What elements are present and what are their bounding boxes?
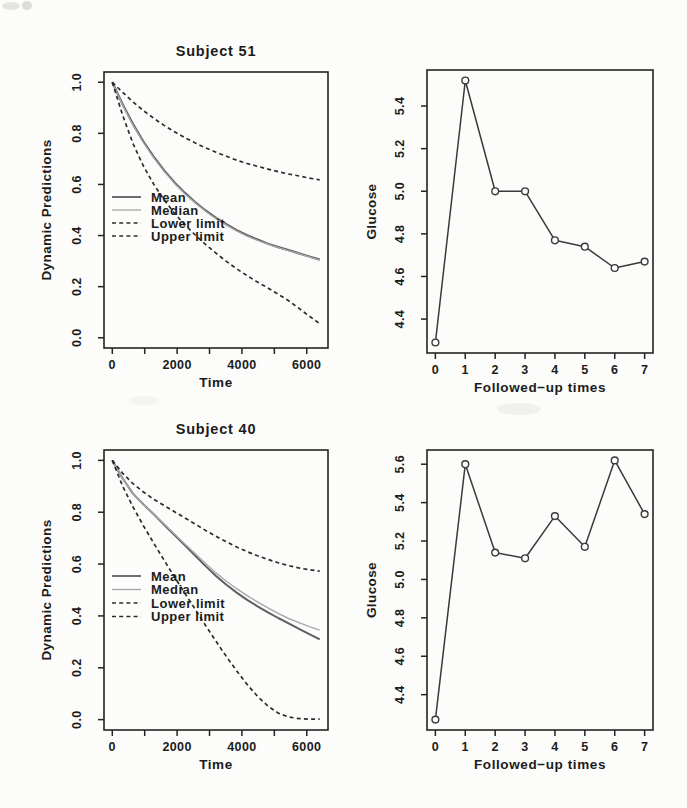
y-tick-label: 5.0 <box>393 570 407 589</box>
data-point-marker <box>462 77 469 84</box>
plot-box <box>427 450 653 730</box>
figure-canvas: 02000400060000.00.20.40.60.81.0TimeDynam… <box>0 0 687 808</box>
x-axis-label: Followed−up times <box>474 757 606 772</box>
y-axis-label: Glucose <box>364 562 379 618</box>
data-point-marker <box>581 243 588 250</box>
x-tick-label: 4 <box>551 740 558 754</box>
y-axis-label: Dynamic Predictions <box>39 139 54 280</box>
y-tick-label: 4.8 <box>393 225 407 244</box>
series-upper-limit-line <box>112 460 319 571</box>
y-tick-label: 4.8 <box>393 609 407 628</box>
y-tick-label: 0.2 <box>70 658 84 677</box>
legend-label-upper-limit: Upper limit <box>151 229 225 244</box>
subject-51-predictions: 02000400060000.00.20.40.60.81.0TimeDynam… <box>39 43 329 390</box>
x-tick-label: 5 <box>581 740 588 754</box>
y-tick-label: 0.4 <box>70 607 84 626</box>
x-tick-label: 0 <box>109 358 116 372</box>
y-tick-label: 4.4 <box>393 685 407 704</box>
x-tick-label: 2000 <box>162 740 191 754</box>
data-point-marker <box>552 513 559 520</box>
x-tick-label: 4000 <box>227 358 256 372</box>
legend-label-upper-limit: Upper limit <box>151 609 225 624</box>
y-tick-label: 0.6 <box>70 175 84 194</box>
y-tick-label: 0.4 <box>70 226 84 245</box>
series-lower-limit-line <box>112 460 319 719</box>
subject-51-glucose: 012345674.44.64.85.05.25.4Followed−up ti… <box>364 70 654 395</box>
x-tick-label: 4 <box>551 363 558 377</box>
chart-title: Subject 51 <box>176 43 257 59</box>
y-tick-label: 4.6 <box>393 647 407 666</box>
series-lower-limit-line <box>112 82 319 324</box>
data-point-marker <box>432 716 439 723</box>
y-tick-label: 4.4 <box>393 310 407 329</box>
data-point-marker <box>522 188 529 195</box>
data-point-marker <box>462 461 469 468</box>
y-tick-label: 1.0 <box>70 451 84 470</box>
y-tick-label: 5.6 <box>393 455 407 474</box>
x-tick-label: 3 <box>521 740 528 754</box>
y-tick-label: 0.0 <box>70 710 84 729</box>
x-tick-label: 3 <box>521 363 528 377</box>
data-point-marker <box>611 265 618 272</box>
x-tick-label: 7 <box>641 740 648 754</box>
subject-40-predictions: 02000400060000.00.20.40.60.81.0TimeDynam… <box>39 421 329 772</box>
x-axis-label: Time <box>199 375 233 390</box>
y-tick-label: 0.2 <box>70 277 84 296</box>
data-point-marker <box>641 258 648 265</box>
series-glucose-line <box>435 460 644 719</box>
x-tick-label: 6 <box>611 740 618 754</box>
data-point-marker <box>611 457 618 464</box>
data-point-marker <box>492 188 499 195</box>
y-tick-label: 5.4 <box>393 97 407 116</box>
y-tick-label: 0.8 <box>70 124 84 143</box>
x-axis-label: Time <box>199 757 233 772</box>
y-tick-label: 1.0 <box>70 73 84 92</box>
x-tick-label: 0 <box>432 740 439 754</box>
x-tick-label: 4000 <box>227 740 256 754</box>
x-tick-label: 6000 <box>292 358 321 372</box>
x-tick-label: 2 <box>491 363 498 377</box>
data-point-marker <box>522 555 529 562</box>
data-point-marker <box>552 237 559 244</box>
x-tick-label: 0 <box>432 363 439 377</box>
x-tick-label: 7 <box>641 363 648 377</box>
y-axis-label: Glucose <box>364 183 379 239</box>
subject-40-glucose: 012345674.44.64.85.05.25.45.6Followed−up… <box>364 450 654 772</box>
scanned-figure-page: 02000400060000.00.20.40.60.81.0TimeDynam… <box>0 0 687 808</box>
y-axis-label: Dynamic Predictions <box>39 519 54 660</box>
data-point-marker <box>492 549 499 556</box>
x-tick-label: 2000 <box>162 358 191 372</box>
x-tick-label: 6 <box>611 363 618 377</box>
y-tick-label: 0.6 <box>70 555 84 574</box>
data-point-marker <box>641 511 648 518</box>
y-tick-label: 5.2 <box>393 139 407 158</box>
y-tick-label: 4.6 <box>393 267 407 286</box>
x-tick-label: 1 <box>462 363 469 377</box>
chart-title: Subject 40 <box>176 421 257 437</box>
x-tick-label: 5 <box>581 363 588 377</box>
legend: MeanMedianLower limitUpper limit <box>112 190 225 244</box>
y-tick-label: 0.0 <box>70 328 84 347</box>
x-tick-label: 2 <box>491 740 498 754</box>
data-point-marker <box>581 543 588 550</box>
legend: MeanMedianLower limitUpper limit <box>112 569 225 625</box>
x-tick-label: 1 <box>462 740 469 754</box>
y-tick-label: 0.8 <box>70 503 84 522</box>
y-tick-label: 5.2 <box>393 532 407 551</box>
x-tick-label: 0 <box>109 740 116 754</box>
data-point-marker <box>432 339 439 346</box>
y-tick-label: 5.4 <box>393 493 407 512</box>
series-glucose-line <box>435 81 644 343</box>
x-axis-label: Followed−up times <box>474 380 606 395</box>
y-tick-label: 5.0 <box>393 182 407 201</box>
x-tick-label: 6000 <box>292 740 321 754</box>
